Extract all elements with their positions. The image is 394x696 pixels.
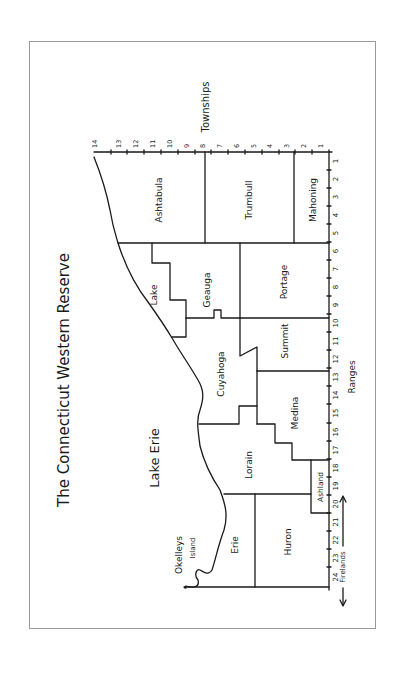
range-number: 1 (332, 159, 340, 163)
range-number: 21 (332, 518, 340, 527)
range-number: 24 (332, 572, 340, 581)
township-numbers: 1 2 3 4 5 6 7 8 9 10 11 12 13 14 (91, 140, 325, 148)
county-label-huron: Huron (283, 528, 293, 555)
county-label-erie: Erie (230, 536, 240, 554)
township-number: 7 (216, 144, 224, 148)
county-label-ashland: Ashland (316, 472, 325, 502)
range-number: 13 (332, 373, 340, 382)
county-label-portage: Portage (279, 264, 289, 299)
township-number: 13 (115, 140, 123, 148)
township-number: 12 (132, 140, 140, 148)
township-number: 8 (199, 144, 207, 148)
county-label-ashtabula: Ashtabula (154, 177, 164, 222)
township-number: 1 (317, 144, 325, 148)
island-label-line2: Island (189, 538, 197, 559)
range-number: 7 (332, 267, 340, 271)
township-number: 3 (283, 144, 291, 148)
township-number: 6 (233, 144, 241, 148)
township-number: 14 (91, 140, 99, 148)
township-number: 11 (149, 140, 157, 148)
range-number: 10 (332, 319, 340, 328)
townships-axis (94, 150, 332, 154)
range-numbers: 1 2 3 4 5 6 7 8 9 10 11 12 13 14 15 16 1… (332, 159, 340, 582)
townships-axis-label: Townships (200, 82, 211, 134)
range-number: 2 (332, 177, 340, 181)
township-number: 10 (166, 140, 174, 148)
range-number: 20 (332, 500, 340, 509)
firelands-label: Firelands (339, 551, 347, 583)
range-number: 8 (332, 285, 340, 289)
county-label-summit: Summit (280, 323, 290, 358)
county-label-medina: Medina (290, 397, 300, 430)
range-number: 4 (332, 212, 340, 217)
county-label-lorain: Lorain (244, 451, 254, 479)
ranges-axis-label: Ranges (347, 360, 357, 394)
firelands-arrow (340, 496, 346, 606)
range-number: 22 (332, 536, 340, 545)
range-number: 12 (332, 355, 340, 364)
range-number: 23 (332, 554, 340, 563)
county-label-geauga: Geauga (202, 273, 212, 308)
township-number: 9 (183, 144, 191, 148)
county-label-trumbull: Trumbull (244, 181, 254, 221)
county-label-mahoning: Mahoning (308, 178, 318, 222)
island-label-line1: Okelleys (174, 536, 184, 574)
western-reserve-map: The Connecticut Western Reserve Lake Eri… (0, 0, 394, 696)
township-number: 2 (300, 144, 308, 148)
range-number: 5 (332, 231, 340, 235)
county-label-lake: Lake (149, 284, 159, 305)
county-label-cuyahoga: Cuyahoga (216, 351, 226, 396)
range-number: 11 (332, 337, 340, 346)
township-number: 5 (250, 144, 258, 148)
range-number: 9 (332, 303, 340, 307)
map-title: The Connecticut Western Reserve (55, 253, 73, 508)
ranges-axis (327, 150, 331, 590)
range-number: 17 (332, 446, 340, 455)
range-number: 6 (332, 248, 340, 253)
range-number: 15 (332, 409, 340, 418)
range-number: 3 (332, 195, 340, 199)
range-number: 16 (332, 427, 340, 436)
range-number: 18 (332, 464, 340, 473)
township-number: 4 (266, 144, 274, 148)
range-number: 19 (332, 482, 340, 491)
range-number: 14 (332, 390, 340, 399)
lake-erie-label: Lake Erie (147, 428, 162, 488)
